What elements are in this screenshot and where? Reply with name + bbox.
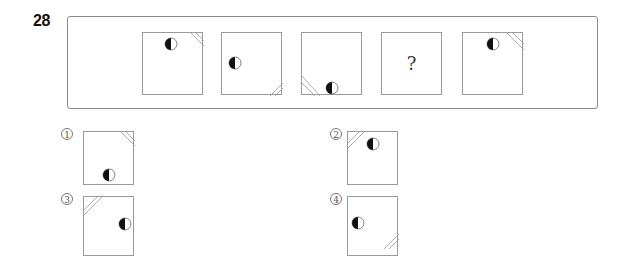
half-filled-circle-icon	[367, 138, 379, 150]
option-2[interactable]	[347, 131, 398, 185]
corner-stripes-icon	[302, 76, 320, 96]
option-1-marker: 1	[61, 128, 73, 140]
sequence-figure-3	[301, 32, 362, 95]
option-4-graphic	[348, 197, 399, 257]
half-filled-circle-icon	[103, 169, 115, 181]
corner-stripes-icon	[270, 83, 283, 96]
option-3[interactable]	[83, 196, 134, 256]
corner-stripes-icon	[384, 234, 399, 249]
question-mark: ?	[382, 53, 441, 74]
figure-2-graphic	[222, 33, 283, 96]
figure-3-graphic	[302, 33, 363, 96]
sequence-figure-5	[462, 32, 523, 95]
corner-stripes-icon	[191, 33, 204, 46]
figure-1-graphic	[143, 33, 204, 96]
option-4[interactable]	[347, 196, 398, 256]
option-2-marker: 2	[330, 128, 342, 140]
figure-5-graphic	[463, 33, 524, 96]
question-number: 28	[33, 12, 50, 30]
sequence-figure-2	[221, 32, 282, 95]
half-filled-circle-icon	[326, 82, 338, 94]
half-filled-circle-icon	[119, 218, 131, 230]
half-filled-circle-icon	[165, 38, 177, 50]
corner-stripes-icon	[348, 132, 364, 148]
half-filled-circle-icon	[352, 217, 364, 229]
option-3-graphic	[84, 197, 135, 257]
half-filled-circle-icon	[487, 38, 499, 50]
corner-stripes-icon	[84, 197, 102, 215]
corner-stripes-icon	[507, 33, 524, 50]
option-4-marker: 4	[330, 193, 342, 205]
sequence-figure-4-unknown: ?	[381, 32, 442, 95]
half-filled-circle-icon	[229, 57, 241, 69]
option-2-graphic	[348, 132, 399, 186]
corner-stripes-icon	[121, 132, 135, 146]
sequence-figure-1	[142, 32, 203, 95]
option-3-marker: 3	[61, 193, 73, 205]
option-1-graphic	[84, 132, 135, 186]
option-1[interactable]	[83, 131, 134, 185]
